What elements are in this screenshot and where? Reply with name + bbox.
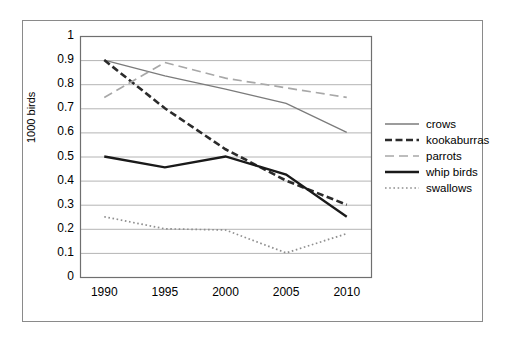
y-tick-label: 0.8 bbox=[44, 76, 74, 90]
legend-swatch-whip-birds bbox=[385, 166, 419, 178]
y-tick-label: 0 bbox=[44, 269, 74, 283]
legend-item-crows: crows bbox=[385, 116, 489, 132]
y-tick-label: 0.1 bbox=[44, 245, 74, 259]
figure-container: 1000 birds 00.10.20.30.40.50.60.70.80.91… bbox=[0, 0, 505, 342]
legend-label: parrots bbox=[426, 150, 462, 162]
x-tick-label: 2005 bbox=[263, 285, 309, 299]
chart-legend: crowskookaburrasparrotswhip birdsswallow… bbox=[385, 116, 489, 196]
series-line-parrots bbox=[104, 63, 347, 98]
x-tick-label: 1990 bbox=[81, 285, 127, 299]
y-tick-label: 1 bbox=[44, 28, 74, 42]
x-tick-label: 2000 bbox=[203, 285, 249, 299]
y-tick-label: 0.4 bbox=[44, 173, 74, 187]
y-tick-label: 0.5 bbox=[44, 149, 74, 163]
y-tick-label: 0.7 bbox=[44, 100, 74, 114]
legend-item-whip-birds: whip birds bbox=[385, 164, 489, 180]
legend-label: crows bbox=[426, 118, 456, 130]
legend-item-swallows: swallows bbox=[385, 180, 489, 196]
y-tick-label: 0.9 bbox=[44, 52, 74, 66]
legend-swatch-kookaburras bbox=[385, 134, 419, 146]
x-tick-label: 1995 bbox=[142, 285, 188, 299]
y-tick-label: 0.2 bbox=[44, 221, 74, 235]
legend-label: kookaburras bbox=[426, 134, 489, 146]
series-line-swallows bbox=[104, 217, 347, 253]
legend-swatch-swallows bbox=[385, 182, 419, 194]
x-tick-label: 2010 bbox=[324, 285, 370, 299]
legend-item-kookaburras: kookaburras bbox=[385, 132, 489, 148]
legend-swatch-parrots bbox=[385, 150, 419, 162]
series-line-crows bbox=[104, 60, 347, 132]
y-tick-label: 0.6 bbox=[44, 124, 74, 138]
y-tick-label: 0.3 bbox=[44, 197, 74, 211]
series-line-whip-birds bbox=[104, 157, 347, 217]
legend-label: whip birds bbox=[426, 166, 478, 178]
legend-swatch-crows bbox=[385, 118, 419, 130]
legend-item-parrots: parrots bbox=[385, 148, 489, 164]
legend-label: swallows bbox=[426, 182, 472, 194]
